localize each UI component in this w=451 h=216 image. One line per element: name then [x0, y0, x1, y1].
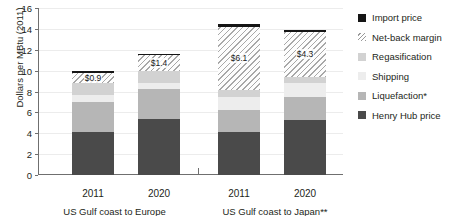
y-tick-mark-10: [35, 71, 39, 72]
legend-label-regasification: Regasification: [372, 51, 432, 62]
x-tick-label-japan-2011: 2011: [218, 188, 260, 199]
legend: Import price Net-back margin Regasificat…: [358, 8, 450, 125]
y-tick-mark-4: [35, 133, 39, 134]
legend-item-henry-hub-price[interactable]: Henry Hub price: [358, 106, 450, 126]
net-back-margin-value-label: $0.9: [84, 73, 103, 83]
segment-regasification: [72, 83, 114, 95]
segment-liquefaction: [218, 110, 260, 132]
import-price-swatch-icon: [358, 14, 366, 22]
henry-hub-price-swatch-icon: [358, 111, 366, 119]
legend-item-regasification[interactable]: Regasification: [358, 47, 450, 67]
x-tick-label-japan-2020: 2020: [284, 188, 326, 199]
group-divider: [198, 168, 199, 175]
y-tick-label-16: 16: [21, 3, 32, 14]
y-tick-label-14: 14: [21, 23, 32, 34]
segment-henry-hub-price: [72, 132, 114, 175]
y-tick-mark-6: [35, 112, 39, 113]
segment-liquefaction: [72, 102, 114, 132]
bar-japan-2011[interactable]: $6.1: [218, 24, 260, 175]
segment-net-back-margin: $1.4: [138, 55, 180, 71]
legend-label-liquefaction: Liquefaction*: [372, 90, 427, 101]
y-tick-label-4: 4: [27, 128, 32, 139]
net-back-margin-value-label: $6.1: [230, 53, 249, 63]
group-label-japan: US Gulf coast to Japan**: [200, 206, 350, 216]
segment-net-back-margin: $0.9: [72, 73, 114, 84]
net-back-margin-value-label: $1.4: [150, 58, 169, 68]
segment-liquefaction: [138, 89, 180, 119]
y-tick-mark-0: [35, 175, 39, 176]
lng-netback-cost-stacked-bar-chart: Dollars per MBtu (2011) 16 14 12 10 8 6 …: [0, 0, 451, 216]
x-tick-label-europe-2020: 2020: [138, 188, 180, 199]
bar-europe-2011[interactable]: $0.9: [72, 71, 114, 175]
segment-shipping: [284, 83, 326, 97]
legend-item-net-back-margin[interactable]: Net-back margin: [358, 28, 450, 48]
segment-henry-hub-price: [284, 120, 326, 175]
y-tick-label-8: 8: [27, 86, 32, 97]
net-back-margin-value-label: $4.3: [296, 49, 315, 59]
segment-shipping: [72, 95, 114, 102]
gridline-16: [39, 8, 343, 9]
segment-net-back-margin: $6.1: [218, 27, 260, 91]
legend-label-import-price: Import price: [372, 12, 422, 23]
segment-henry-hub-price: [138, 119, 180, 175]
y-axis-title: Dollars per MBtu (2011): [14, 0, 25, 123]
y-tick-label-0: 0: [27, 170, 32, 181]
segment-shipping: [218, 97, 260, 111]
y-tick-mark-2: [35, 154, 39, 155]
bar-japan-2020[interactable]: $4.3: [284, 30, 326, 175]
segment-henry-hub-price: [218, 132, 260, 175]
y-tick-label-12: 12: [21, 44, 32, 55]
legend-item-import-price[interactable]: Import price: [358, 8, 450, 28]
legend-item-liquefaction[interactable]: Liquefaction*: [358, 86, 450, 106]
legend-label-henry-hub-price: Henry Hub price: [372, 110, 441, 121]
y-tick-mark-8: [35, 92, 39, 93]
y-tick-label-10: 10: [21, 65, 32, 76]
segment-liquefaction: [284, 97, 326, 120]
segment-net-back-margin: $4.3: [284, 32, 326, 77]
shipping-swatch-icon: [358, 72, 366, 80]
y-tick-mark-14: [35, 29, 39, 30]
y-tick-mark-16: [35, 8, 39, 9]
segment-regasification: [138, 71, 180, 83]
liquefaction-swatch-icon: [358, 92, 366, 100]
y-tick-mark-12: [35, 50, 39, 51]
plot-area: 16 14 12 10 8 6 4 2 0 $0.9 $1.4: [38, 8, 343, 175]
regasification-swatch-icon: [358, 53, 366, 61]
legend-label-shipping: Shipping: [372, 71, 409, 82]
bar-europe-2020[interactable]: $1.4: [138, 54, 180, 175]
net-back-margin-swatch-icon: [358, 33, 366, 41]
y-tick-label-2: 2: [27, 149, 32, 160]
legend-label-net-back-margin: Net-back margin: [372, 32, 442, 43]
group-label-europe: US Gulf coast to Europe: [47, 206, 182, 216]
y-tick-label-6: 6: [27, 107, 32, 118]
x-tick-label-europe-2011: 2011: [72, 188, 114, 199]
legend-item-shipping[interactable]: Shipping: [358, 67, 450, 87]
